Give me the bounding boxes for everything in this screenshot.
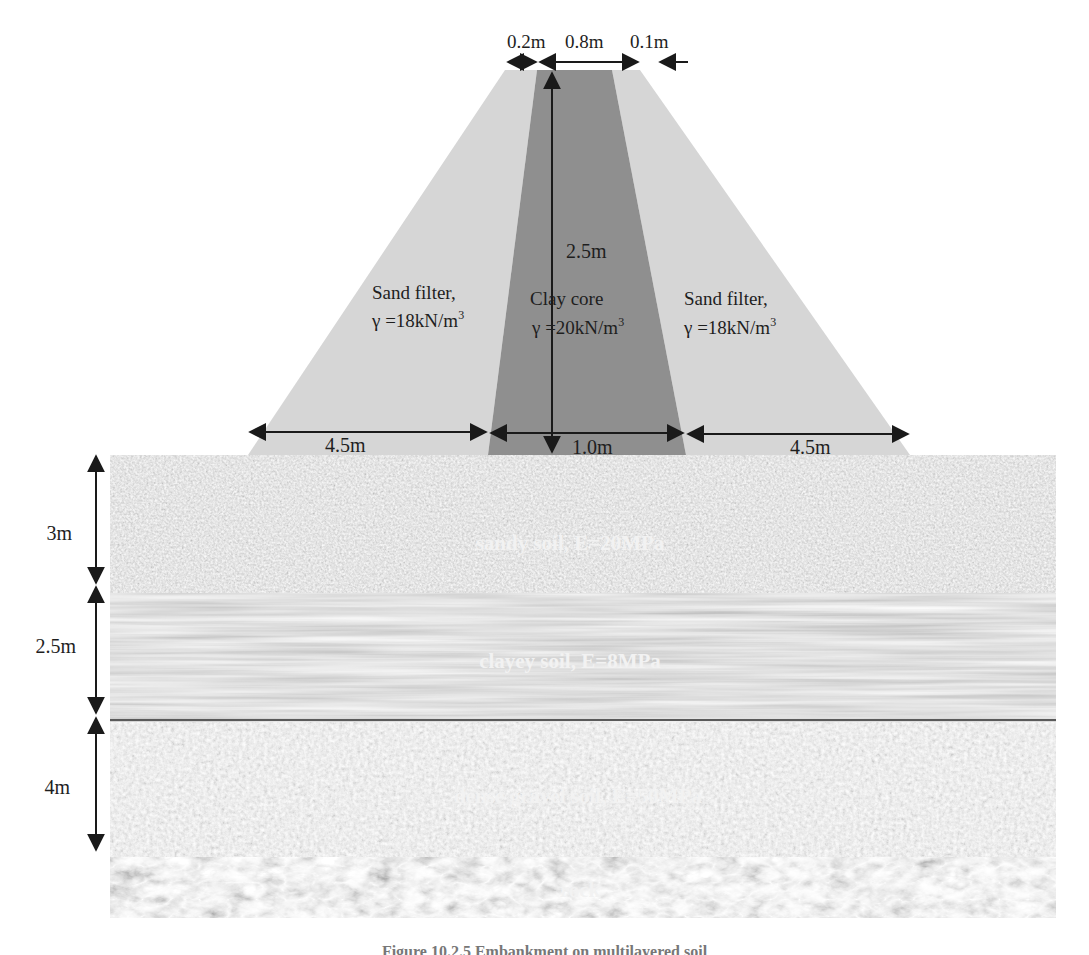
soil-profile: [110, 455, 1056, 918]
label-clayey-soil: clayey soil, E=8MPa: [479, 649, 661, 673]
label-rock: rock: [560, 878, 601, 902]
dim-label-sandy: 3m: [46, 522, 72, 544]
dim-label-base-right: 4.5m: [790, 436, 831, 458]
sand-filter-left-name: Sand filter,: [372, 282, 456, 303]
dim-label-gravel: 4m: [44, 776, 70, 798]
sand-filter-left: [248, 70, 537, 455]
sand-filter-right-name: Sand filter,: [684, 288, 768, 309]
sand-filter-right-gamma: γ =18kN/m3: [683, 315, 776, 338]
dim-label-base-left: 4.5m: [325, 434, 366, 456]
embankment: [248, 70, 910, 455]
figure-caption: Figure 10.2.5 Embankment on multilayered…: [0, 941, 1089, 955]
dim-label-top-right: 0.1m: [630, 31, 669, 52]
dim-label-base-center: 1.0m: [572, 436, 613, 458]
dim-label-clayey: 2.5m: [35, 635, 76, 657]
dim-label-top-center: 0.8m: [565, 31, 604, 52]
clay-core-name: Clay core: [530, 288, 603, 309]
label-dense-gravel-soil: dense gravel soil, E=50MPa: [454, 784, 702, 808]
sand-filter-left-gamma: γ =18kN/m3: [371, 308, 464, 331]
dim-label-top-left: 0.2m: [507, 31, 546, 52]
dim-label-height: 2.5m: [566, 240, 607, 262]
dam-foundation-diagram: sandy soil, E=20MPa clayey soil, E=8MPa …: [0, 0, 1089, 955]
layer-sandy-soil: [110, 455, 1056, 593]
label-sandy-soil: sandy soil, E=20MPa: [476, 531, 665, 555]
clay-core-gamma: γ =20kN/m3: [531, 315, 624, 338]
